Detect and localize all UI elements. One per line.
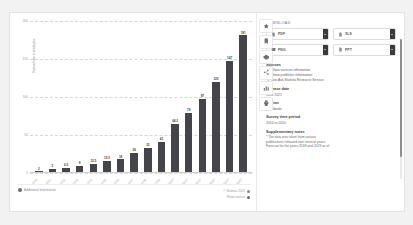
dropdown-caret-button[interactable] <box>323 29 329 39</box>
bar-value-label: 18 <box>119 155 122 159</box>
bar-value-label: 12.5 <box>90 159 96 163</box>
y-axis-tick-label: 100 <box>13 95 28 99</box>
dropdown-caret-button[interactable] <box>323 45 329 55</box>
share-icon <box>263 69 270 76</box>
bar-item[interactable]: 15.5 <box>100 21 114 173</box>
bar-value-label: 97 <box>201 94 204 98</box>
sources-heading: Sources <box>266 63 396 67</box>
bar-item[interactable]: 6.5 <box>59 21 73 173</box>
chevron-down-icon <box>324 49 326 50</box>
x-axis-baseline <box>30 172 252 173</box>
region-heading: Region <box>266 101 396 105</box>
bar-item[interactable]: 120 <box>209 21 223 173</box>
dropdown-caret-button[interactable] <box>390 29 396 39</box>
bookmark-icon-button[interactable] <box>259 35 273 49</box>
bar-item[interactable]: 33 <box>141 21 155 173</box>
chart-footer: Additional Information © Statista 2022 S… <box>18 184 250 206</box>
bar-value-label: 2 <box>38 167 40 171</box>
source-link[interactable]: →Use Ask Statista Research Service <box>266 78 396 83</box>
download-button-label: PDF <box>278 32 285 36</box>
download-png-button[interactable]: PNG <box>266 44 329 56</box>
bar-series: 256.5912.515.51826334164.27997120147181 <box>30 21 252 173</box>
bar-item[interactable]: 5 <box>46 21 60 173</box>
info-icon <box>18 188 22 192</box>
bar-item[interactable]: 181 <box>236 21 250 173</box>
chevron-down-icon <box>391 34 393 35</box>
bar[interactable] <box>185 113 193 173</box>
bar-item[interactable]: 2 <box>32 21 46 173</box>
bar-item[interactable]: 147 <box>223 21 237 173</box>
share-icon-button[interactable] <box>259 66 273 80</box>
bar-item[interactable]: 26 <box>127 21 141 173</box>
chevron-down-icon <box>324 34 326 35</box>
dropdown-caret-button[interactable] <box>390 45 396 55</box>
statista-chart-page: Data volume in zettabytes 050100150200 2… <box>0 0 413 225</box>
bar-value-label: 26 <box>133 148 136 152</box>
scrollbar-thumb[interactable] <box>400 39 402 157</box>
survey-period-value: 2010 to 2020 <box>266 121 396 126</box>
supplementary-notes-body: * The data was taken from variouspublica… <box>266 135 396 148</box>
release-date-heading: Release date <box>266 87 396 91</box>
bar-value-label: 147 <box>227 56 232 60</box>
bar[interactable] <box>158 142 166 173</box>
release-date-value: June 2021 <box>266 93 396 98</box>
bar-value-label: 120 <box>213 77 218 81</box>
bar[interactable] <box>239 35 247 173</box>
y-axis-tick-label: 0 <box>13 171 28 175</box>
chart-icon-button[interactable] <box>259 81 273 95</box>
bar[interactable] <box>212 82 220 173</box>
gear-icon-button[interactable] <box>259 50 273 64</box>
source-link-label: Show publisher information <box>271 73 312 78</box>
content-card: Data volume in zettabytes 050100150200 2… <box>9 12 405 212</box>
show-source-button[interactable]: Show source <box>223 194 250 200</box>
info-panel-scrollbar[interactable] <box>400 39 402 179</box>
xls-icon <box>338 32 343 37</box>
chart-plot-area: Data volume in zettabytes 050100150200 2… <box>30 21 252 173</box>
bar-item[interactable]: 41 <box>155 21 169 173</box>
bar[interactable] <box>117 159 125 173</box>
star-icon <box>263 23 270 30</box>
bar-value-label: 181 <box>241 31 246 35</box>
sources-links: →Show sources information→Show publisher… <box>266 68 396 83</box>
chart-panel: Data volume in zettabytes 050100150200 2… <box>10 13 256 211</box>
source-link-label: Show sources information <box>271 68 310 73</box>
gear-icon <box>263 54 270 61</box>
bar[interactable] <box>226 61 234 173</box>
download-xls-button[interactable]: XLS <box>333 28 396 40</box>
show-source-icon <box>247 196 250 199</box>
additional-information-label: Additional Information <box>24 188 56 192</box>
source-link[interactable]: →Show publisher information <box>266 73 396 78</box>
bar-item[interactable]: 12.5 <box>87 21 101 173</box>
source-link[interactable]: →Show sources information <box>266 68 396 73</box>
download-button-label: XLS <box>345 32 352 36</box>
bar-value-label: 6.5 <box>64 163 68 167</box>
y-axis-tick-label: 200 <box>13 19 28 23</box>
region-value: Worldwide <box>266 107 396 112</box>
bar-value-label: 15.5 <box>104 156 110 160</box>
info-panel: DOWNLOAD PDFXLSPNGPPT Sources →Show sour… <box>256 13 404 211</box>
bar[interactable] <box>144 148 152 173</box>
bar-item[interactable]: 18 <box>114 21 128 173</box>
download-heading: DOWNLOAD <box>266 21 396 25</box>
bar-item[interactable]: 64.2 <box>168 21 182 173</box>
bar[interactable] <box>199 99 207 173</box>
copyright-info-icon <box>247 190 250 193</box>
print-icon-button[interactable] <box>259 97 273 111</box>
bar-item[interactable]: 97 <box>196 21 210 173</box>
download-button-label: PPT <box>345 48 352 52</box>
bar[interactable] <box>130 153 138 173</box>
bar-item[interactable]: 79 <box>182 21 196 173</box>
show-source-label: Show source <box>227 194 245 200</box>
bar-item[interactable]: 9 <box>73 21 87 173</box>
download-ppt-button[interactable]: PPT <box>333 44 396 56</box>
download-pdf-button[interactable]: PDF <box>266 28 329 40</box>
bookmark-icon <box>263 38 270 45</box>
star-icon-button[interactable] <box>259 19 273 33</box>
bar-value-label: 79 <box>187 108 190 112</box>
chevron-down-icon <box>391 49 393 50</box>
bar[interactable] <box>171 124 179 173</box>
ppt-icon <box>338 47 343 52</box>
footer-right: © Statista 2022 Show source <box>223 188 250 200</box>
bar-value-label: 9 <box>79 161 81 165</box>
additional-information-button[interactable]: Additional Information <box>18 188 56 192</box>
